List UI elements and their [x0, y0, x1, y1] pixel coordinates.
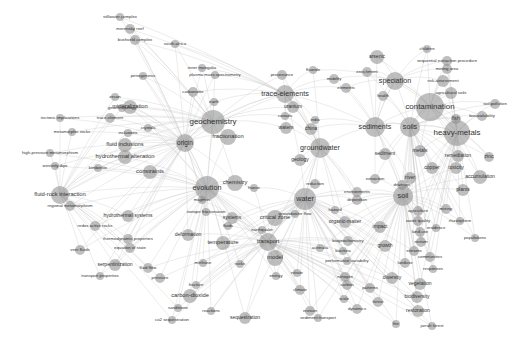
node-label: crystals [141, 126, 156, 130]
node-label: climate [293, 288, 307, 292]
node-label: mobility [327, 77, 342, 81]
node-label: mixing [440, 207, 452, 211]
node-label: sandstone [168, 306, 188, 310]
node-label: india [310, 118, 319, 122]
node-label: temperature [207, 240, 238, 246]
node-label: rocks [235, 262, 245, 266]
node-label: water [296, 195, 314, 202]
node-label: stream [414, 240, 427, 244]
node-label: growth [377, 243, 392, 248]
node-label: transport properties [81, 274, 118, 278]
node-label: fluid inclusions [106, 142, 143, 148]
node-label: bushveld complex [118, 38, 153, 42]
node-label: agriculture [408, 209, 428, 213]
node-label: transport [257, 239, 280, 245]
node-label: enrichment [356, 70, 377, 74]
node-label: fluid flow [140, 266, 157, 270]
node-label: inclusions [119, 131, 138, 135]
node-label: health [377, 94, 389, 98]
node-label: france [248, 186, 260, 190]
node-label: bioavailability [469, 114, 495, 118]
node-label: mining area [436, 67, 459, 71]
node-label: magmas [194, 198, 211, 202]
node-label: plants [456, 187, 469, 192]
node-label: deformation [175, 232, 202, 237]
node-label: petrogenesis [131, 74, 156, 78]
node-label: pressure [152, 276, 169, 280]
node-label: remediation [445, 153, 471, 158]
node-label: agricultural soils [436, 91, 467, 95]
node-label: co2 sequestration [155, 318, 189, 322]
node-label: residence [427, 226, 446, 230]
node-label: thermodynamic properties [103, 237, 153, 241]
node-label: energy [269, 274, 282, 278]
node-label: populations [464, 236, 486, 240]
node-label: canada [278, 114, 292, 118]
node-label: nitrate [291, 271, 303, 275]
node-label: rhizosphere [449, 219, 472, 223]
node-label: fractionation [212, 134, 243, 140]
node-label: australia [312, 246, 328, 250]
node-label: sediments [359, 123, 392, 130]
node-label: constraints [136, 169, 164, 175]
node-label: fluoride [306, 68, 320, 72]
node-label: nitrogen [337, 275, 353, 279]
node-label: geochronology [108, 106, 136, 110]
node-label: earthquake [251, 228, 273, 232]
node-label: metamorphic rocks [54, 130, 90, 134]
node-label: serpentinization [97, 262, 132, 267]
node-label: scale [339, 297, 349, 301]
node-label: metals [413, 148, 428, 153]
node-label: land-use [412, 230, 429, 234]
node-label: geology [291, 157, 309, 162]
node-label: environments [344, 190, 370, 194]
node-label: methane [195, 261, 212, 265]
node-label: performance variability [325, 259, 368, 263]
node-label: sediment [375, 151, 395, 156]
node-label: earth [209, 100, 219, 104]
node-label: hazard [328, 208, 341, 212]
node-label: plasma mass spectrometry [189, 73, 241, 77]
node-label: jarrah forest [420, 324, 443, 328]
node-label: water quality [406, 219, 430, 223]
node-label: bacteria [335, 249, 350, 253]
node-label: erosion [303, 309, 317, 313]
node-label: deposition [347, 198, 367, 202]
node-label: model [267, 255, 283, 261]
node-label: impact [373, 224, 388, 229]
node-label: groundwater [300, 144, 340, 151]
node-label: carbonatite [182, 90, 203, 94]
node-label: children [419, 47, 434, 51]
node-label: streams [406, 249, 421, 253]
node-label: landuse [397, 261, 412, 265]
node-label: elements [337, 86, 355, 90]
edge-layer [0, 0, 518, 344]
node-label: tectonic implications [41, 116, 80, 120]
node-label: zircon [109, 95, 121, 99]
node-label: high-pressure metamorphism [22, 151, 78, 155]
node-label: soils [403, 123, 417, 130]
node-label: accumulation [465, 174, 495, 179]
node-label: fluid-rock interaction [34, 192, 85, 198]
node-label: organic-matter [329, 219, 361, 224]
node-label: extraction [366, 177, 385, 181]
node-label: hydrothermal systems [103, 213, 152, 218]
node-label: sequestration [230, 315, 260, 320]
node-label: arsenic [369, 54, 385, 59]
node-label: inner mongolia [188, 66, 216, 70]
node-label: zinc [485, 154, 494, 159]
node-label: westerly dips [43, 164, 68, 168]
node-label: south africa [164, 42, 186, 46]
node-label: toxicity [448, 165, 463, 170]
node-label: stillwater complex [103, 15, 137, 19]
node-label: dynamics [348, 307, 366, 311]
node-label: speciation [379, 77, 411, 84]
network-map: geochemistrycontaminationheavy-metalssoi… [0, 0, 518, 344]
node-label: vent fluids [70, 248, 89, 252]
node-label: reactions [202, 309, 220, 313]
node-label: restoration [406, 308, 430, 313]
node-label: evolution [193, 184, 222, 191]
node-label: patterns [362, 286, 378, 290]
node-label: groundwater flow [279, 212, 312, 216]
node-label: carbon [340, 283, 353, 287]
